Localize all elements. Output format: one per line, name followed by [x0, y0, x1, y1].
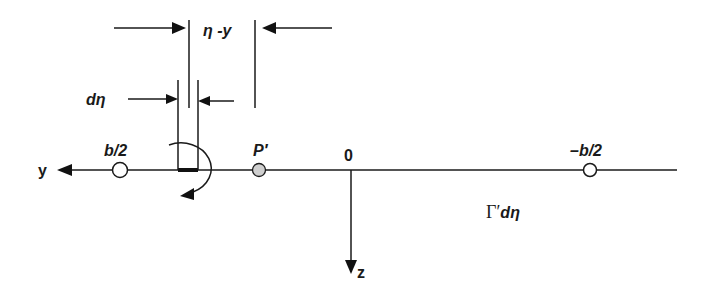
origin-label: 0: [344, 147, 353, 164]
right-tip-label: –b/2: [570, 142, 602, 159]
left-tip-label: b/2: [104, 142, 127, 159]
z-axis: z 0: [344, 147, 365, 281]
circulation-arrow-icon: [180, 188, 194, 200]
eta-minus-y-left-arrow-icon: [172, 22, 186, 34]
y-axis-arrow-icon: [57, 164, 72, 176]
z-axis-arrow-icon: [345, 260, 357, 274]
lifting-line-diagram: y z 0 b/2 P′ –b/2 dη: [0, 0, 714, 296]
left-tip-marker-icon: [113, 163, 128, 178]
d-eta-dimension: dη: [86, 91, 234, 108]
y-axis-label: y: [38, 162, 47, 179]
d-eta-right-arrow-icon: [198, 96, 210, 106]
vortex-strength-label: Γ′dη: [486, 202, 520, 222]
circulation-arc: [169, 143, 211, 192]
y-axis: y: [38, 162, 677, 179]
eta-minus-y-label: η -y: [203, 22, 233, 39]
control-point-marker-icon: [253, 164, 266, 177]
z-axis-label: z: [357, 264, 365, 281]
eta-minus-y-right-arrow-icon: [262, 22, 276, 34]
control-point-label: P′: [253, 142, 269, 159]
control-point: P′: [253, 142, 269, 177]
d-eta-label: dη: [86, 91, 106, 108]
eta-minus-y-dimension: η -y: [114, 20, 332, 108]
gamma-d-eta-label: Γ′dη: [486, 202, 520, 222]
left-tip-point: b/2: [104, 142, 128, 178]
right-tip-marker-icon: [584, 164, 597, 177]
right-tip-point: –b/2: [570, 142, 602, 177]
d-eta-left-arrow-icon: [166, 94, 178, 104]
